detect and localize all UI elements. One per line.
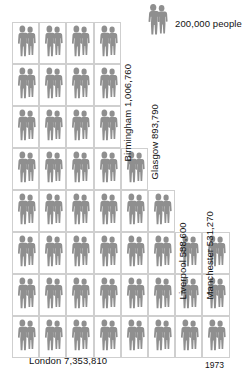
figure-cell-london [94,22,121,64]
figure-cell-london [12,232,39,274]
figure-cell-london [66,148,93,190]
figure-cell-london [12,274,39,316]
figure-cell-london [12,148,39,190]
city-label-birmingham: Birmingham 1,006,760 [123,64,133,162]
figure-cell-london [94,232,121,274]
city-label-glasgow: Glasgow 893,790 [150,104,160,179]
figure-cell-manchester [202,316,229,358]
figure-cell-london [66,274,93,316]
figure-cell-london [12,22,39,64]
figure-cell-london [39,190,66,232]
figure-cell-london [94,274,121,316]
figure-cell-london [66,232,93,274]
figure-cell-london [66,106,93,148]
pictogram-chart: 200,000 people [0,0,247,377]
figure-cell-london [94,106,121,148]
figure-cell-glasgow [148,232,175,274]
figure-cell-london [94,190,121,232]
figure-cell-liverpool [175,316,202,358]
figure-cell-glasgow [148,274,175,316]
figure-cell-birmingham [121,190,148,232]
figure-cell-london [94,64,121,106]
city-label-manchester: Manchester 531,270 [205,211,215,299]
figure-cell-london [39,232,66,274]
figure-cell-birmingham [121,232,148,274]
figure-cell-london [39,64,66,106]
chart-legend: 200,000 people [143,2,247,44]
city-label-london: London 7,353,810 [29,355,107,366]
people-pair-icon [143,2,171,42]
figure-cell-london [39,148,66,190]
figure-cell-birmingham [121,316,148,358]
figure-cell-london [66,190,93,232]
figure-cell-birmingham [121,274,148,316]
year-label: 1973 [205,360,224,370]
figure-cell-london [66,22,93,64]
figure-cell-london [66,64,93,106]
figure-cell-london [12,64,39,106]
figure-cell-london [39,316,66,358]
figure-cell-london [12,316,39,358]
figure-cell-london [12,106,39,148]
figure-cell-london [39,106,66,148]
figure-cell-london [39,22,66,64]
figure-cell-london [94,148,121,190]
legend-label: 200,000 people [175,18,242,29]
figure-cell-london [39,274,66,316]
figure-cell-london [12,190,39,232]
figure-cell-glasgow [148,190,175,232]
city-label-liverpool: Liverpool 588,600 [178,222,188,299]
figure-cell-london [66,316,93,358]
figure-cell-glasgow [148,316,175,358]
figure-cell-london [94,316,121,358]
